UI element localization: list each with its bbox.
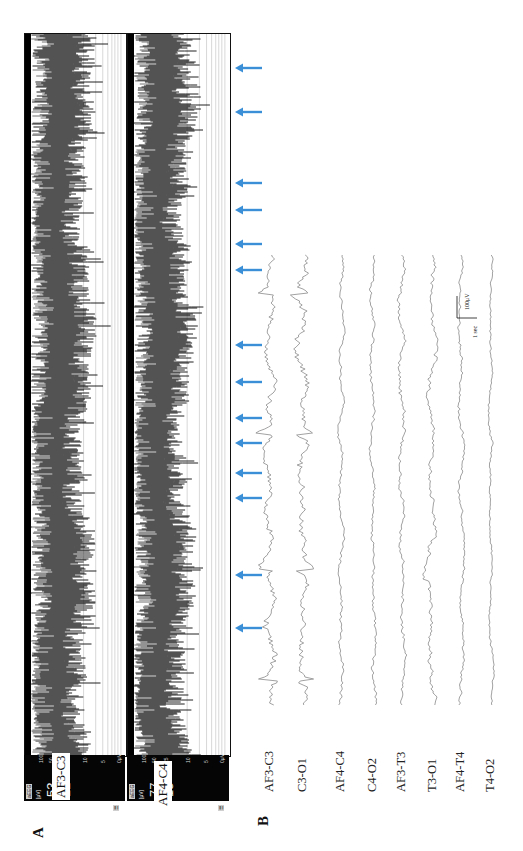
scale-time-label: 1 sec <box>472 326 478 338</box>
eeg-trace-c3-o1 <box>290 255 313 705</box>
event-arrow-icon <box>235 107 263 117</box>
tick-0: 0μV <box>219 754 225 763</box>
eeg-channel-label: AF3-T3 <box>394 752 409 792</box>
eeg-channel-label: C3-O1 <box>295 758 310 792</box>
aeeg-channel-1-header: aEEG [μV] 53 12 100 50 25 10 5 0μV <box>24 755 125 801</box>
menu-icon[interactable]: ☰ <box>113 805 119 811</box>
event-arrow-icon <box>235 205 263 215</box>
aeeg-channel-2-header: aEEG [μV] 77 15 100 50 25 10 5 0μV <box>127 755 229 801</box>
eeg-trace-af4-c4 <box>338 255 346 705</box>
panel-a-letter: A <box>30 827 47 838</box>
aeeg-1-trace <box>25 34 126 756</box>
aeeg-tag: aEEG <box>129 784 135 799</box>
unit-label: [μV] <box>138 790 144 799</box>
eeg-trace-c4-o2 <box>369 255 377 705</box>
tick-10: 10 <box>82 757 88 763</box>
aeeg-channel-2-label: AF4-C4 <box>154 761 172 808</box>
eeg-channel-label: T4-O2 <box>483 759 498 792</box>
tick-10: 10 <box>185 757 191 763</box>
tick-100: 100 <box>141 755 147 763</box>
aeeg-channel-2-plot <box>127 33 231 757</box>
menu-icon[interactable]: ☰ <box>218 805 224 811</box>
panel-b-letter: B <box>255 816 272 826</box>
eeg-channel-label: AF3-C3 <box>262 751 277 792</box>
eeg-channel-label: AF4-C4 <box>333 751 348 792</box>
eeg-trace-t3-o1 <box>423 255 438 705</box>
aeeg-channel-1-plot <box>24 33 127 757</box>
aeeg-2-trace <box>128 34 230 756</box>
eeg-trace-t4-o2 <box>488 255 494 705</box>
eeg-trace-af3-t3 <box>397 255 407 705</box>
tick-0: 0μV <box>116 754 122 763</box>
event-arrow-icon <box>235 63 263 73</box>
tick-100: 100 <box>38 755 44 763</box>
eeg-channel-label: T3-O1 <box>425 759 440 792</box>
tick-5: 5 <box>100 760 106 763</box>
aeeg-tag: aEEG <box>26 784 32 799</box>
unit-label: [μV] <box>35 790 41 799</box>
event-arrow-icon <box>235 178 263 188</box>
eeg-channel-label: C4-O2 <box>365 758 380 792</box>
eeg-channel-label: AF4-T4 <box>453 752 468 792</box>
scale-amplitude-label: 100μV <box>464 293 470 310</box>
scale-bar <box>455 295 485 345</box>
eeg-trace-af3-c3 <box>256 255 278 705</box>
tick-5: 5 <box>203 760 209 763</box>
aeeg-channel-1-label: AF3-C3 <box>52 753 70 800</box>
